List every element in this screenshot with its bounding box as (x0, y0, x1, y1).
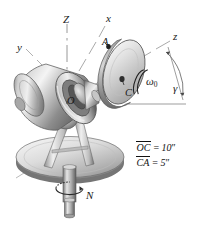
unit-CA: ″ (165, 157, 169, 168)
base-rotation-N: N (86, 190, 93, 201)
point-label-A: A (102, 37, 108, 48)
drive-post-step (64, 198, 75, 202)
axis-label-y: y (17, 42, 22, 53)
dimension-row-OC: OC = 10″ (136, 141, 175, 156)
point-label-O: O (67, 96, 75, 107)
axis-label-Z: Z (63, 14, 69, 25)
unit-OC: ″ (172, 142, 176, 153)
axis-label-x: x (106, 13, 111, 24)
angular-velocity-omega-zero: ω0 (146, 76, 158, 88)
drive-post (63, 165, 76, 218)
omega-subscript: 0 (154, 80, 158, 89)
dimension-notes: OC = 10″ CA = 5″ (136, 141, 175, 170)
angle-gamma: γ (173, 83, 177, 94)
drive-post-lower-segment (65, 200, 75, 216)
segment-CA: CA (136, 156, 150, 169)
segment-OC: OC (136, 141, 151, 154)
axis-label-z: z (173, 31, 177, 42)
drive-post-bottom-cap (65, 214, 75, 218)
equals-CA: = (152, 157, 158, 168)
gyroscope-figure: Z x y z A C O ω0 γ N OC = 10″ CA = 5″ (0, 0, 202, 230)
drive-post-collar-top (63, 165, 76, 170)
omega-glyph: ω (146, 75, 154, 87)
disk-center-hub (119, 76, 124, 82)
equals-OC: = (153, 142, 159, 153)
figure-graphic (0, 0, 202, 230)
drive-post-shaft (63, 166, 76, 202)
value-OC: 10 (162, 142, 172, 153)
gyro-housing (8, 64, 105, 131)
point-label-C: C (125, 88, 132, 99)
dimension-row-CA: CA = 5″ (136, 156, 175, 171)
